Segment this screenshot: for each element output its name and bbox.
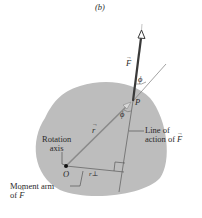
force-vector-symbol: F xyxy=(126,59,131,68)
line-of-action-line2: action of F xyxy=(145,135,182,144)
moment-arm-line2: of F xyxy=(10,191,54,200)
radius-vector-symbol: r xyxy=(92,126,95,135)
line-of-action-force-symbol: F xyxy=(177,135,182,144)
point-p-label: P xyxy=(135,98,140,107)
origin-label: O xyxy=(63,170,69,179)
line-of-action-label: Line of action of F xyxy=(145,126,182,144)
rotation-axis-line2: axis xyxy=(42,144,71,153)
panel-label: (b) xyxy=(95,3,105,12)
force-label: F xyxy=(126,59,131,68)
r-perp-label: r⊥ xyxy=(89,170,98,178)
force-arrowhead xyxy=(138,30,145,39)
phi-bottom-label: ϕ xyxy=(120,110,124,119)
rotation-axis-label: Rotation axis xyxy=(42,135,71,153)
force-extension xyxy=(142,24,143,30)
moment-arm-force-symbol: F xyxy=(19,191,24,200)
moment-arm-label: Moment arm of F xyxy=(10,182,54,200)
radius-label: r xyxy=(92,126,95,135)
phi-top-label: ϕ xyxy=(138,75,142,84)
